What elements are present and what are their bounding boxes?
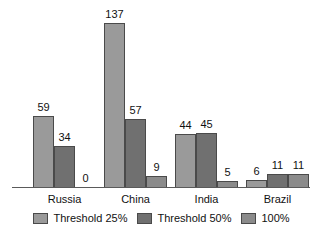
- legend-label: Threshold 50%: [157, 212, 231, 225]
- bar-value-label: 57: [129, 105, 141, 116]
- bar-slot: 45: [196, 8, 217, 187]
- bar-slot: 11: [267, 8, 288, 187]
- category-axis-labels: RussiaChinaIndiaBrazil: [12, 192, 310, 208]
- bar-value-label: 45: [200, 119, 212, 130]
- bar-chart: 593401375794445561111 RussiaChinaIndiaBr…: [0, 0, 323, 243]
- bar-slot: 44: [175, 8, 196, 187]
- bar[interactable]: [33, 116, 54, 187]
- legend-item[interactable]: Threshold 25%: [33, 212, 127, 225]
- bar[interactable]: [267, 174, 288, 187]
- bar[interactable]: [54, 146, 75, 187]
- legend-swatch-icon: [33, 213, 48, 224]
- x-axis-line: [12, 187, 310, 188]
- bar-value-label: 137: [105, 9, 123, 20]
- bar[interactable]: [146, 176, 167, 187]
- bar-slot: 0: [75, 8, 96, 187]
- category-label: Russia: [48, 192, 82, 206]
- bar-value-label: 5: [224, 167, 230, 178]
- bar-slot: 11: [288, 8, 309, 187]
- bar-group: 59340: [33, 8, 96, 187]
- bar-group: 61111: [246, 8, 309, 187]
- bar-slot: 34: [54, 8, 75, 187]
- bar-value-label: 9: [153, 162, 159, 173]
- bar[interactable]: [246, 180, 267, 187]
- bar-group: 44455: [175, 8, 238, 187]
- legend-label: 100%: [261, 212, 289, 225]
- plot-area: 593401375794445561111: [12, 8, 310, 187]
- bar-slot: 6: [246, 8, 267, 187]
- category-label: China: [121, 192, 150, 206]
- bar[interactable]: [288, 174, 309, 187]
- bar-slot: 137: [104, 8, 125, 187]
- bar-slot: 57: [125, 8, 146, 187]
- bar-value-label: 11: [293, 160, 304, 171]
- chart-legend: Threshold 25%Threshold 50%100%: [0, 212, 323, 225]
- bar-value-label: 11: [272, 160, 283, 171]
- legend-swatch-icon: [241, 213, 256, 224]
- bar-slot: 59: [33, 8, 54, 187]
- bar[interactable]: [125, 119, 146, 187]
- bar-value-label: 0: [82, 173, 88, 184]
- bar-slot: 9: [146, 8, 167, 187]
- bar[interactable]: [104, 23, 125, 187]
- legend-label: Threshold 25%: [53, 212, 127, 225]
- category-label: Brazil: [264, 192, 292, 206]
- legend-swatch-icon: [137, 213, 152, 224]
- bar-value-label: 59: [37, 102, 49, 113]
- bar-value-label: 34: [58, 132, 70, 143]
- bar-slot: 5: [217, 8, 238, 187]
- bar[interactable]: [175, 134, 196, 187]
- bar[interactable]: [196, 133, 217, 187]
- bar-group: 137579: [104, 8, 167, 187]
- bar-value-label: 44: [179, 120, 191, 131]
- legend-item[interactable]: 100%: [241, 212, 289, 225]
- bar-value-label: 6: [253, 166, 259, 177]
- category-label: India: [195, 192, 219, 206]
- legend-item[interactable]: Threshold 50%: [137, 212, 231, 225]
